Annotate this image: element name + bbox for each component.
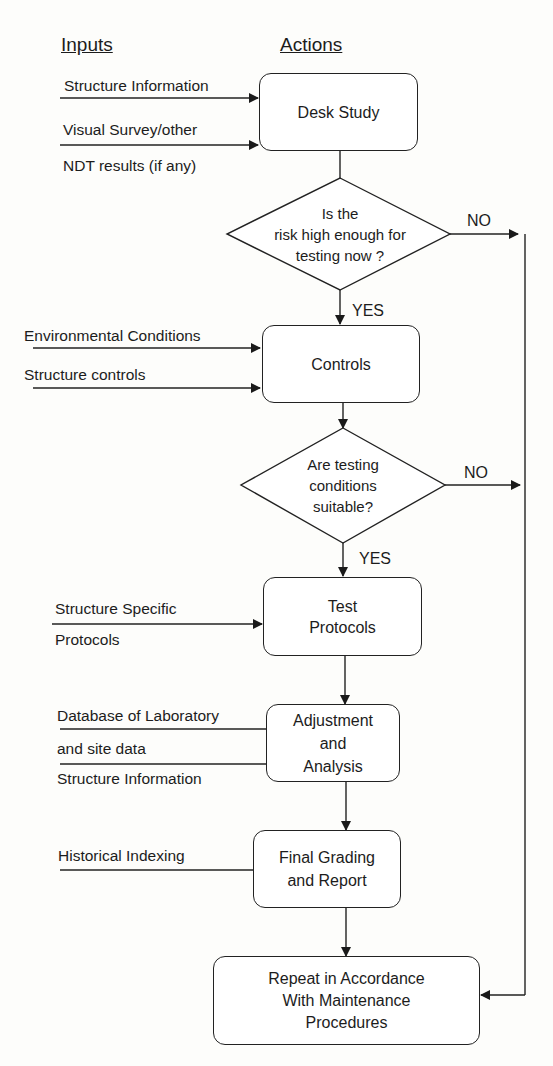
no-label-2: NO (464, 464, 488, 482)
decision-conditions-line: conditions (283, 475, 403, 496)
repeat-line: Repeat in Accordance (268, 968, 425, 990)
decision-risk: Is the risk high enough for testing now … (250, 203, 430, 266)
action-desk-study: Desk Study (259, 73, 418, 151)
controls-label: Controls (311, 354, 371, 375)
input-environmental-conditions: Environmental Conditions (24, 327, 201, 345)
adjustment-line: Analysis (293, 755, 373, 778)
input-ndt-results: NDT results (if any) (63, 157, 196, 175)
input-structure-specific: Structure Specific (55, 600, 176, 618)
action-test-protocols: Test Protocols (263, 577, 422, 656)
repeat-line: Procedures (268, 1012, 425, 1034)
input-site-data: and site data (57, 740, 146, 758)
decision-risk-line: risk high enough for (250, 224, 430, 245)
decision-conditions: Are testing conditions suitable? (283, 454, 403, 517)
inputs-header: Inputs (61, 36, 113, 54)
adjustment-line: Adjustment (293, 709, 373, 732)
adjustment-line: and (293, 732, 373, 755)
decision-conditions-line: suitable? (283, 496, 403, 517)
final-grading-line: and Report (279, 869, 375, 892)
decision-conditions-line: Are testing (283, 454, 403, 475)
repeat-line: With Maintenance (268, 990, 425, 1012)
action-repeat: Repeat in Accordance With Maintenance Pr… (213, 956, 480, 1045)
test-protocols-line: Protocols (309, 617, 376, 638)
input-database: Database of Laboratory (57, 707, 219, 725)
decision-risk-line: testing now ? (250, 245, 430, 266)
decision-risk-line: Is the (250, 203, 430, 224)
action-controls: Controls (262, 325, 420, 403)
input-structure-information: Structure Information (64, 77, 209, 95)
yes-label-1: YES (352, 302, 384, 320)
actions-header: Actions (280, 36, 342, 54)
final-grading-line: Final Grading (279, 846, 375, 869)
input-historical-indexing: Historical Indexing (58, 847, 185, 865)
action-final-grading: Final Grading and Report (253, 830, 401, 908)
no-label-1: NO (467, 212, 491, 230)
input-visual-survey: Visual Survey/other (63, 121, 197, 139)
yes-label-2: YES (359, 550, 391, 568)
input-structure-controls: Structure controls (24, 366, 145, 384)
action-adjustment-analysis: Adjustment and Analysis (266, 704, 400, 782)
input-protocols: Protocols (55, 631, 120, 649)
desk-study-label: Desk Study (298, 102, 380, 123)
test-protocols-line: Test (309, 596, 376, 617)
input-structure-information-2: Structure Information (57, 770, 202, 788)
